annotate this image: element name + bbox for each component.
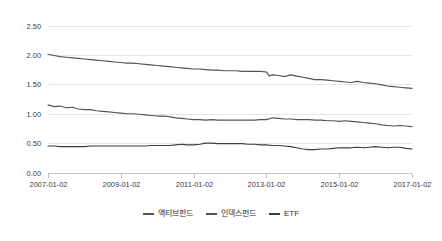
legend-label: ETF <box>284 210 299 218</box>
legend-label: 액티브펀드 <box>158 210 193 218</box>
y-tick-label: 1.00 <box>27 110 41 119</box>
y-tick-label: 2.00 <box>27 51 41 60</box>
chart-canvas: 0.000.501.001.502.002.50 2007-01-022009-… <box>0 0 442 241</box>
legend-item[interactable]: 액티브펀드 <box>143 210 193 218</box>
x-tick-label: 2013-01-02 <box>248 180 286 189</box>
chart-legend: 액티브펀드인덱스펀드ETF <box>0 210 442 218</box>
legend-item[interactable]: 인덱스펀드 <box>206 210 256 218</box>
legend-swatch-icon <box>206 213 217 215</box>
series-line <box>48 54 412 88</box>
y-axis-tick-labels: 0.000.501.001.502.002.50 <box>27 22 41 178</box>
series-lines <box>48 54 412 149</box>
series-line <box>48 105 412 127</box>
axis-tickmarks <box>49 174 413 178</box>
line-chart: 0.000.501.001.502.002.50 2007-01-022009-… <box>0 0 442 241</box>
y-tick-label: 1.50 <box>27 80 41 89</box>
x-tick-label: 2017-01-02 <box>394 180 432 189</box>
x-tick-label: 2007-01-02 <box>30 180 68 189</box>
legend-swatch-icon <box>269 213 280 215</box>
y-tick-label: 2.50 <box>27 22 41 31</box>
x-tick-label: 2015-01-02 <box>321 180 359 189</box>
y-tick-label: 0.50 <box>27 139 41 148</box>
y-tick-label: 0.00 <box>27 169 41 178</box>
legend-label: 인덱스펀드 <box>221 210 256 218</box>
legend-swatch-icon <box>143 213 154 215</box>
x-tick-label: 2009-01-02 <box>103 180 141 189</box>
x-axis-tick-labels: 2007-01-022009-01-022011-01-022013-01-02… <box>30 180 432 189</box>
legend-item[interactable]: ETF <box>269 210 299 218</box>
gridlines <box>48 27 412 174</box>
x-tick-label: 2011-01-02 <box>176 180 213 189</box>
series-line <box>48 143 412 149</box>
